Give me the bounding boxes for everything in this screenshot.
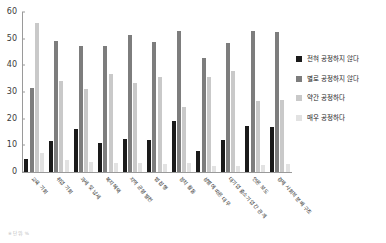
y-tick-label: 30 <box>0 88 21 96</box>
legend-label: 약간 공정하다 <box>307 95 345 102</box>
bar <box>286 164 290 172</box>
x-axis-label: 경제 사회적 분배 구조 <box>276 176 312 216</box>
bar <box>35 23 39 172</box>
bar <box>245 126 249 172</box>
bar <box>275 32 279 172</box>
chart-footnote: ※ 단위: % <box>8 230 29 236</box>
bar <box>98 143 102 172</box>
bar <box>65 160 69 172</box>
legend-label: 매우 공정하다 <box>307 115 345 122</box>
bar <box>138 163 142 172</box>
y-tick-label: 40 <box>0 61 21 69</box>
bar <box>103 46 107 172</box>
legend-item[interactable]: 전혀 공정하지 않다 <box>296 56 384 63</box>
x-axis-label: 법 집행 <box>153 176 168 192</box>
x-label-cell: 정치 활동 <box>169 174 194 240</box>
x-label-cell: 지역 균형 발전 <box>120 174 145 240</box>
bar <box>270 127 274 172</box>
bar <box>163 164 167 172</box>
legend-swatch-icon <box>296 56 302 62</box>
bar <box>261 165 265 172</box>
bar-group <box>47 12 72 172</box>
bar <box>59 81 63 172</box>
bar-group <box>22 12 47 172</box>
y-tick-label: 0 <box>0 168 21 176</box>
bar <box>49 141 53 172</box>
bar <box>74 129 78 172</box>
bar-group <box>267 12 292 172</box>
bar <box>152 42 156 172</box>
bar-groups <box>22 12 292 172</box>
x-label-cell: 취업 기회 <box>47 174 72 240</box>
x-axis-label: 복지혜택 <box>104 176 121 194</box>
bar-chart: 0102030405060 교육 기회취업 기회과세 및 납세복지혜택지역 균형… <box>0 0 386 243</box>
x-label-cell: 과세 및 납세 <box>71 174 96 240</box>
bar-group <box>96 12 121 172</box>
bar <box>251 31 255 172</box>
plot-area <box>22 12 292 172</box>
x-label-cell: 복지혜택 <box>96 174 121 240</box>
bar <box>54 41 58 172</box>
bar <box>24 159 28 172</box>
legend-label: 전혀 공정하지 않다 <box>307 56 359 63</box>
y-tick-label: 60 <box>0 8 21 16</box>
legend-item[interactable]: 별로 공정하지 않다 <box>296 76 384 83</box>
bar-group <box>194 12 219 172</box>
bar-group <box>218 12 243 172</box>
bar-group <box>243 12 268 172</box>
x-axis-labels: 교육 기회취업 기회과세 및 납세복지혜택지역 균형 발전법 집행정치 활동성별… <box>22 174 292 240</box>
x-label-cell: 대기업 중소기업 간 관계 <box>218 174 243 240</box>
x-label-cell: 경제 사회적 분배 구조 <box>267 174 292 240</box>
chart-legend: 전혀 공정하지 않다별로 공정하지 않다약간 공정하다매우 공정하다 <box>296 56 384 121</box>
bar-group <box>145 12 170 172</box>
legend-item[interactable]: 약간 공정하다 <box>296 95 384 102</box>
bar <box>147 140 151 172</box>
bar <box>182 107 186 172</box>
legend-swatch-icon <box>296 95 302 101</box>
legend-item[interactable]: 매우 공정하다 <box>296 115 384 122</box>
bar <box>114 163 118 172</box>
bar <box>236 166 240 172</box>
y-tick-label: 20 <box>0 115 21 123</box>
bar <box>30 88 34 172</box>
bar <box>133 83 137 172</box>
bar <box>84 89 88 172</box>
bar-group <box>71 12 96 172</box>
bar <box>128 35 132 172</box>
bar <box>256 101 260 172</box>
bar <box>207 77 211 172</box>
x-label-cell: 언론 보도 <box>243 174 268 240</box>
bar <box>79 46 83 172</box>
legend-swatch-icon <box>296 115 302 121</box>
y-tick-label: 50 <box>0 35 21 43</box>
bar <box>172 121 176 172</box>
x-label-cell: 성별에 따른 대우 <box>194 174 219 240</box>
bar <box>40 153 44 172</box>
bar <box>231 71 235 172</box>
bar <box>202 58 206 172</box>
bar <box>158 77 162 172</box>
bar <box>280 100 284 172</box>
bar <box>89 162 93 172</box>
bar <box>212 166 216 172</box>
bar <box>123 139 127 172</box>
bar <box>226 43 230 172</box>
bar <box>196 151 200 172</box>
bar <box>221 140 225 172</box>
bar-group <box>169 12 194 172</box>
bar <box>187 163 191 172</box>
bar-group <box>120 12 145 172</box>
y-tick-label: 10 <box>0 141 21 149</box>
bar <box>177 31 181 172</box>
legend-swatch-icon <box>296 76 302 82</box>
legend-label: 별로 공정하지 않다 <box>307 76 359 83</box>
x-axis-line <box>22 172 292 173</box>
bar <box>109 74 113 172</box>
x-label-cell: 법 집행 <box>145 174 170 240</box>
